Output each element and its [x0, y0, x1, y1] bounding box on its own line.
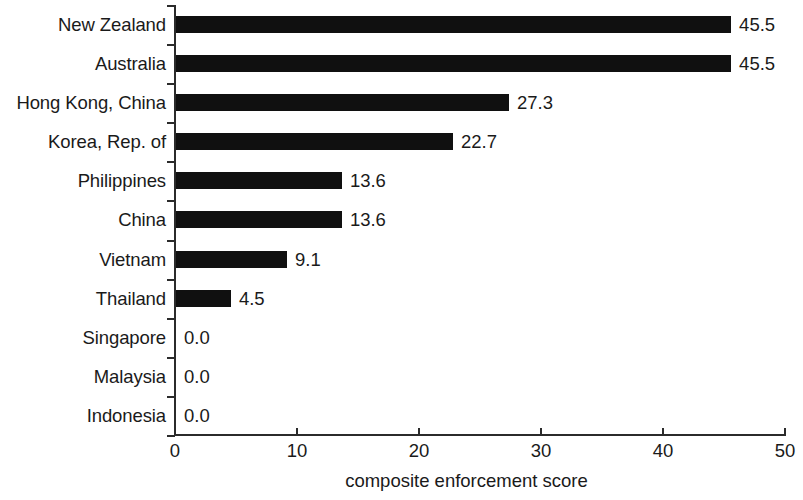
x-axis-tick-label: 40 — [633, 440, 693, 462]
bar-value-label: 13.6 — [350, 161, 386, 200]
bar-value-label: 27.3 — [517, 83, 553, 122]
category-label: Philippines — [0, 161, 166, 200]
y-axis-tick — [167, 357, 175, 359]
bar-value-label: 0.0 — [184, 396, 210, 435]
x-axis-tick — [296, 428, 298, 436]
y-axis-tick — [167, 83, 175, 85]
bar-row: Vietnam9.1 — [0, 240, 803, 279]
category-label: Hong Kong, China — [0, 83, 166, 122]
x-axis-title: composite enforcement score — [0, 470, 803, 492]
category-label: Malaysia — [0, 357, 166, 396]
x-axis-tick-label: 30 — [511, 440, 571, 462]
category-label: Singapore — [0, 318, 166, 357]
y-axis-tick — [167, 279, 175, 281]
bar-row: Philippines13.6 — [0, 161, 803, 200]
y-axis-tick — [167, 240, 175, 242]
bar-value-label: 9.1 — [295, 240, 321, 279]
y-axis-tick — [167, 200, 175, 202]
bar-value-label: 0.0 — [184, 357, 210, 396]
x-axis-tick — [174, 428, 176, 436]
bar-value-label: 0.0 — [184, 318, 210, 357]
y-axis-tick — [167, 396, 175, 398]
bar — [176, 94, 509, 111]
category-label: Korea, Rep. of — [0, 122, 166, 161]
bar-row: New Zealand45.5 — [0, 5, 803, 44]
category-label: Vietnam — [0, 240, 166, 279]
bar — [176, 172, 342, 189]
x-axis-tick — [540, 428, 542, 436]
bar — [176, 55, 731, 72]
y-axis-tick — [167, 318, 175, 320]
bar-row: Thailand4.5 — [0, 279, 803, 318]
x-axis-tick-label: 20 — [389, 440, 449, 462]
x-axis-tick — [784, 428, 786, 436]
bar — [176, 251, 287, 268]
bar-row: Indonesia0.0 — [0, 396, 803, 435]
y-axis-tick — [167, 122, 175, 124]
bar — [176, 290, 231, 307]
bar-value-label: 45.5 — [739, 44, 775, 83]
y-axis-tick — [167, 5, 175, 7]
category-label: Indonesia — [0, 396, 166, 435]
bar-row: Korea, Rep. of22.7 — [0, 122, 803, 161]
bar-value-label: 13.6 — [350, 200, 386, 239]
x-axis-tick — [418, 428, 420, 436]
bar-row: Singapore0.0 — [0, 318, 803, 357]
bar-value-label: 4.5 — [239, 279, 265, 318]
bar-chart: New Zealand45.5Australia45.5Hong Kong, C… — [0, 0, 803, 500]
bar-value-label: 45.5 — [739, 5, 775, 44]
bar-row: Malaysia0.0 — [0, 357, 803, 396]
x-axis-tick-label: 50 — [755, 440, 803, 462]
x-axis-tick — [662, 428, 664, 436]
bar — [176, 133, 453, 150]
category-label: Australia — [0, 44, 166, 83]
category-label: Thailand — [0, 279, 166, 318]
x-axis-tick-label: 0 — [145, 440, 205, 462]
x-axis-tick-label: 10 — [267, 440, 327, 462]
bar — [176, 16, 731, 33]
category-label: China — [0, 200, 166, 239]
bar-row: Australia45.5 — [0, 44, 803, 83]
y-axis-tick — [167, 161, 175, 163]
bar — [176, 211, 342, 228]
category-label: New Zealand — [0, 5, 166, 44]
bar-value-label: 22.7 — [461, 122, 497, 161]
bar-row: China13.6 — [0, 200, 803, 239]
bar-row: Hong Kong, China27.3 — [0, 83, 803, 122]
y-axis-tick — [167, 44, 175, 46]
